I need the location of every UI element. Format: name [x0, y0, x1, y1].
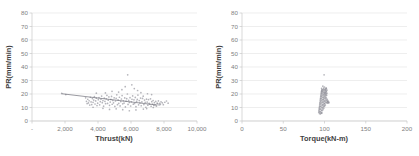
- data-point: [87, 98, 89, 100]
- data-point: [325, 87, 327, 89]
- data-point: [102, 107, 104, 109]
- data-point: [118, 102, 120, 104]
- data-point: [135, 106, 137, 108]
- y-tick-label: 70: [231, 23, 238, 30]
- data-point: [92, 102, 94, 104]
- data-point: [136, 99, 138, 101]
- data-point: [128, 99, 130, 101]
- chart-pr-vs-torque-svg: 01020304050607080 050100150200 PR(mm/min…: [210, 0, 419, 156]
- data-point: [167, 102, 169, 104]
- data-point: [324, 89, 326, 91]
- data-point: [86, 100, 88, 102]
- x-tick-label: 2,000: [57, 125, 73, 132]
- y-tick-label: 0: [235, 117, 239, 124]
- data-point: [118, 91, 120, 93]
- y-tick-label: 30: [231, 77, 238, 84]
- y-tick-label: 60: [21, 36, 28, 43]
- data-point: [133, 88, 135, 90]
- data-point: [101, 102, 103, 104]
- data-point: [325, 101, 327, 103]
- data-point: [140, 97, 142, 99]
- data-point: [326, 98, 328, 100]
- data-point: [97, 102, 99, 104]
- data-point: [124, 86, 126, 88]
- data-point: [137, 90, 139, 92]
- data-point: [138, 100, 140, 102]
- data-point: [91, 104, 93, 106]
- data-point: [152, 100, 154, 102]
- data-point: [99, 101, 101, 103]
- data-point: [97, 99, 99, 101]
- chart-pr-vs-torque: 01020304050607080 050100150200 PR(mm/min…: [210, 0, 419, 156]
- data-point: [111, 90, 113, 92]
- data-point: [90, 101, 92, 103]
- data-point: [135, 109, 137, 111]
- x-tick-label: 50: [280, 125, 287, 132]
- data-point: [146, 108, 148, 110]
- data-point: [164, 101, 166, 103]
- data-point: [109, 104, 111, 106]
- y-tick-label: 70: [21, 23, 28, 30]
- data-point: [115, 97, 117, 99]
- data-point: [117, 104, 119, 106]
- y-tick-label: 10: [21, 104, 28, 111]
- data-point: [323, 107, 325, 109]
- right-x-axis-title: Torque(kN-m): [300, 134, 348, 143]
- data-point: [88, 100, 90, 102]
- data-point: [138, 104, 140, 106]
- data-point: [146, 101, 148, 103]
- data-point: [129, 97, 131, 99]
- data-point: [106, 95, 108, 97]
- data-point: [92, 106, 94, 108]
- data-point: [325, 97, 327, 99]
- y-tick-label: 40: [231, 63, 238, 70]
- data-point: [324, 86, 326, 88]
- x-tick-label: 10,000: [188, 125, 207, 132]
- x-tick-label: 0: [240, 125, 244, 132]
- data-point: [127, 104, 129, 106]
- data-point: [104, 100, 106, 102]
- data-point: [105, 92, 107, 94]
- data-point: [114, 106, 116, 108]
- data-point: [116, 94, 118, 96]
- data-point: [108, 96, 110, 98]
- data-point: [131, 98, 133, 100]
- data-point: [326, 89, 328, 91]
- data-point: [146, 98, 148, 100]
- data-point: [150, 105, 152, 107]
- data-point: [166, 100, 168, 102]
- data-point: [141, 101, 143, 103]
- data-point: [140, 92, 142, 94]
- data-point: [160, 104, 162, 106]
- chart-pr-vs-thrust-svg: 01020304050607080 -2,0004,0006,0008,0001…: [0, 0, 209, 156]
- y-tick-label: 20: [21, 90, 28, 97]
- data-point: [134, 103, 136, 105]
- data-point: [131, 84, 133, 86]
- data-point: [107, 103, 109, 105]
- data-point: [95, 100, 97, 102]
- data-point: [162, 104, 164, 106]
- y-tick-label: 10: [231, 104, 238, 111]
- data-point: [92, 98, 94, 100]
- data-point: [148, 99, 150, 101]
- data-point: [111, 103, 113, 105]
- y-tick-label: 50: [21, 50, 28, 57]
- data-point: [155, 100, 157, 102]
- x-tick-label: -: [31, 125, 33, 132]
- chart-pr-vs-thrust: 01020304050607080 -2,0004,0006,0008,0001…: [0, 0, 209, 156]
- right-y-axis-title: PR(mm/min): [214, 45, 223, 89]
- left-y-axis-title: PR(mm/min): [4, 45, 13, 89]
- data-point: [144, 102, 146, 104]
- data-point: [119, 105, 121, 107]
- data-point: [137, 94, 139, 96]
- data-point: [93, 99, 95, 101]
- data-point: [158, 100, 160, 102]
- data-point: [142, 98, 144, 100]
- data-point: [324, 104, 326, 106]
- y-tick-label: 80: [21, 9, 28, 16]
- x-tick-label: 150: [361, 125, 372, 132]
- data-point: [154, 102, 156, 104]
- left-x-axis-title: Thrust(kN): [95, 134, 133, 143]
- y-tick-label: 50: [231, 50, 238, 57]
- data-point: [121, 95, 123, 97]
